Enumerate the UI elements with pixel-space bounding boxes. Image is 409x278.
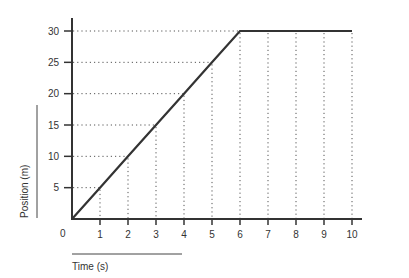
axes xyxy=(71,18,362,220)
y-tick-label: 30 xyxy=(48,26,60,37)
x-tick-label: 10 xyxy=(346,229,358,240)
x-tick-label: 2 xyxy=(125,229,131,240)
x-tick-label: 3 xyxy=(153,229,159,240)
dotted-guide-lines xyxy=(73,31,352,218)
y-axis-title: Position (m) xyxy=(19,165,30,218)
x-tick-label: 8 xyxy=(293,229,299,240)
y-tick-label: 10 xyxy=(48,151,60,162)
x-tick-label: 9 xyxy=(321,229,327,240)
x-axis-title: Time (s) xyxy=(72,261,108,272)
y-tick-label: 5 xyxy=(53,182,59,193)
x-tick-label: 6 xyxy=(237,229,243,240)
x-tick-label: 7 xyxy=(265,229,271,240)
x-tick-label: 1 xyxy=(97,229,103,240)
y-tick-label: 15 xyxy=(48,120,60,131)
axis-ticks: 1234567891051015202530 xyxy=(48,26,358,241)
x-tick-label: 4 xyxy=(181,229,187,240)
x-tick-label: 5 xyxy=(209,229,215,240)
y-tick-label: 25 xyxy=(48,57,60,68)
y-tick-label: 20 xyxy=(48,88,60,99)
origin-label: 0 xyxy=(60,228,66,239)
position-time-chart: 1234567891051015202530 0 Position (m) Ti… xyxy=(0,0,409,278)
